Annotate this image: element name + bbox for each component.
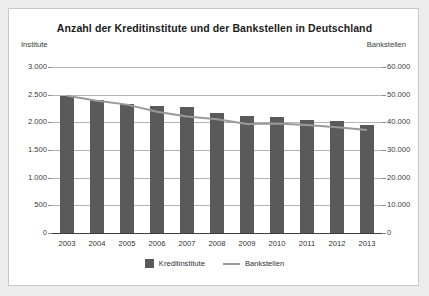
right-axis-caption: Bankstellen <box>367 40 406 49</box>
chart-legend: Kreditinstitute Bankstellen <box>9 259 420 268</box>
right-tick-label: 50.000 <box>387 90 410 99</box>
x-axis-label: 2004 <box>82 239 112 248</box>
left-tick-label: 500 <box>34 200 47 209</box>
x-axis-label: 2003 <box>52 239 82 248</box>
chart-title: Anzahl der Kreditinstitute und der Banks… <box>9 22 420 34</box>
right-tick-label: 20.000 <box>387 173 410 182</box>
x-axis-label: 2009 <box>232 239 262 248</box>
right-tick-mark <box>382 150 386 151</box>
legend-item-kreditinstitute: Kreditinstitute <box>145 259 205 268</box>
line-series-bankstellen <box>52 67 382 233</box>
right-tick-mark <box>382 95 386 96</box>
left-tick-label: 2.000 <box>28 117 47 126</box>
left-tick-label: 3.000 <box>28 62 47 71</box>
right-tick-label: 60.000 <box>387 62 410 71</box>
right-tick-label: 10.000 <box>387 200 410 209</box>
left-tick-label: 1.500 <box>28 145 47 154</box>
x-axis-label: 2011 <box>292 239 322 248</box>
x-axis-label: 2013 <box>352 239 382 248</box>
legend-label-kreditinstitute: Kreditinstitute <box>159 259 205 268</box>
legend-item-bankstellen: Bankstellen <box>223 259 284 268</box>
chart-panel: Anzahl der Kreditinstitute und der Banks… <box>8 8 419 286</box>
x-axis-label: 2007 <box>172 239 202 248</box>
x-axis-label: 2012 <box>322 239 352 248</box>
left-axis-caption: Institute <box>21 40 48 49</box>
bar-swatch-icon <box>145 259 154 268</box>
x-axis-baseline <box>52 233 382 234</box>
left-tick-label: 2.500 <box>28 90 47 99</box>
bankstellen-polyline <box>67 96 367 130</box>
plot-area: 05001.0001.5002.0002.5003.000 010.00020.… <box>52 67 382 233</box>
right-tick-mark <box>382 67 386 68</box>
right-tick-mark <box>382 233 386 234</box>
legend-label-bankstellen: Bankstellen <box>245 259 284 268</box>
x-axis-label: 2008 <box>202 239 232 248</box>
right-tick-mark <box>382 205 386 206</box>
right-tick-mark <box>382 122 386 123</box>
right-tick-label: 40.000 <box>387 117 410 126</box>
right-tick-label: 30.000 <box>387 145 410 154</box>
left-tick-label: 1.000 <box>28 173 47 182</box>
left-tick-label: 0 <box>43 228 47 237</box>
line-swatch-icon <box>223 263 240 265</box>
right-tick-mark <box>382 178 386 179</box>
x-axis-label: 2005 <box>112 239 142 248</box>
x-axis-label: 2010 <box>262 239 292 248</box>
x-axis-label: 2006 <box>142 239 172 248</box>
right-tick-label: 0 <box>387 228 391 237</box>
